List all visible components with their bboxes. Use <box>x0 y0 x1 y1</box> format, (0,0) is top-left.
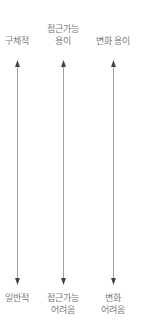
label-bottom-accessible-hard-1: 접근가능 <box>38 293 88 304</box>
arrow-down-icon <box>15 278 20 285</box>
label-bottom-general: 일반적 <box>0 293 42 304</box>
label-bottom-change-hard-1: 변화 <box>88 293 138 304</box>
arrow-down-icon <box>61 278 66 285</box>
arrow-up-icon <box>111 60 116 67</box>
label-bottom-accessible-hard-2: 어려움 <box>38 305 88 316</box>
arrow-up-icon <box>15 60 20 67</box>
arrows-diagram <box>0 0 143 332</box>
label-bottom-change-hard-2: 어려움 <box>88 305 138 316</box>
arrow-up-icon <box>61 60 66 67</box>
arrow-down-icon <box>111 278 116 285</box>
